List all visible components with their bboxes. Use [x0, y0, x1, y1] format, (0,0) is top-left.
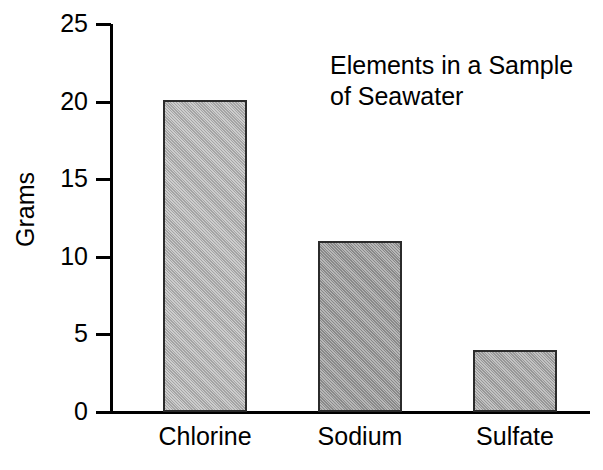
bar-chlorine [163, 100, 247, 412]
y-tick-label: 25 [28, 11, 88, 36]
y-tick-label: 10 [28, 244, 88, 269]
y-tick-label: 20 [28, 89, 88, 114]
bar-chart: Elements in a Sample of Seawater Grams 2… [0, 0, 603, 470]
y-tick-mark [96, 101, 111, 104]
x-label-chlorine: Chlorine [125, 424, 285, 449]
y-tick-mark [96, 178, 111, 181]
chart-title: Elements in a Sample of Seawater [330, 50, 590, 112]
bar-sodium [318, 241, 402, 412]
y-tick-label: 5 [28, 321, 88, 346]
x-label-sodium: Sodium [280, 424, 440, 449]
y-axis-line [110, 24, 113, 414]
y-tick-label: 0 [28, 399, 88, 424]
y-tick-mark [96, 256, 111, 259]
y-tick-label: 15 [28, 166, 88, 191]
bar-sulfate [473, 350, 557, 412]
x-label-sulfate: Sulfate [435, 424, 595, 449]
y-tick-mark [96, 411, 111, 414]
y-tick-mark [96, 333, 111, 336]
y-tick-mark [96, 23, 111, 26]
